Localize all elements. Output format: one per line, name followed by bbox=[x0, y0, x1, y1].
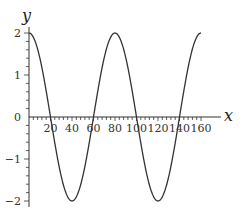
y-tick-label: 2 bbox=[14, 27, 21, 40]
x-tick-label: 160 bbox=[191, 122, 212, 135]
y-axis-label: y bbox=[21, 6, 32, 25]
y-tick-label: −2 bbox=[5, 195, 21, 208]
x-tick-label: 120 bbox=[148, 122, 169, 135]
axes: 20406080100120140160−2−1012 bbox=[5, 27, 221, 208]
y-tick-label: −1 bbox=[5, 153, 21, 166]
x-tick-label: 40 bbox=[65, 122, 79, 135]
y-tick-label: 0 bbox=[14, 111, 21, 124]
cosine-chart: 20406080100120140160−2−1012 x y bbox=[0, 0, 245, 220]
y-tick-label: 1 bbox=[14, 69, 21, 82]
x-tick-label: 80 bbox=[108, 122, 122, 135]
x-tick-label: 100 bbox=[126, 122, 147, 135]
x-axis-label: x bbox=[224, 106, 233, 125]
x-tick-label: 60 bbox=[87, 122, 101, 135]
x-tick-label: 140 bbox=[169, 122, 190, 135]
x-tick-label: 20 bbox=[44, 122, 58, 135]
